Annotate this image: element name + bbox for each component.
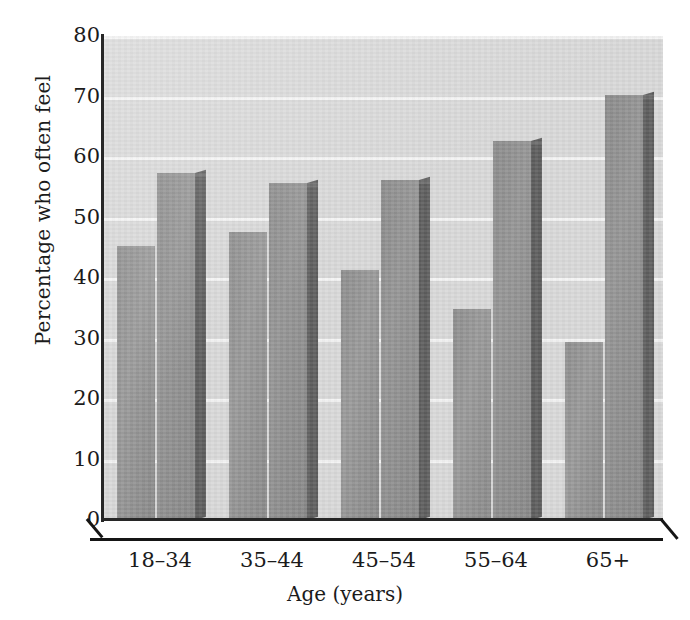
x-axis-tick-labels: 18–3435–4445–5455–6465+ <box>0 548 690 582</box>
gridline <box>103 36 663 39</box>
y-axis-line <box>101 34 104 522</box>
bar-face <box>381 180 419 520</box>
bar-face <box>453 309 491 520</box>
bar-top-face <box>643 95 654 99</box>
x-axis-line-front <box>90 538 663 541</box>
bar-side-face <box>307 180 318 520</box>
bar-face <box>565 342 603 520</box>
bar <box>565 342 603 520</box>
bar-face <box>605 95 643 520</box>
bar-face <box>117 246 155 520</box>
bar-top-face <box>307 183 318 187</box>
x-tick-label: 55–64 <box>464 548 528 572</box>
y-tick-label: 40 <box>52 267 100 288</box>
y-tick-label: 10 <box>52 449 100 470</box>
bar <box>341 270 379 520</box>
x-tick-label: 45–54 <box>352 548 416 572</box>
bar-face <box>269 183 307 520</box>
bar-side-face <box>419 177 430 520</box>
bar <box>381 180 419 520</box>
bar <box>157 173 195 520</box>
bar-chart-figure: Percentage who often feel 01020304050607… <box>0 0 690 620</box>
bar-face <box>229 232 267 520</box>
x-axis-depth-left <box>88 518 106 540</box>
bar <box>269 183 307 520</box>
bar-side-face <box>195 170 206 520</box>
plot-area <box>103 36 663 520</box>
bar-side-face <box>643 92 654 520</box>
bar-top-face <box>531 141 542 145</box>
bar <box>493 141 531 520</box>
gridline <box>103 157 663 160</box>
y-tick-label: 60 <box>52 146 100 167</box>
bar-top-face <box>419 180 430 184</box>
y-tick-label: 30 <box>52 328 100 349</box>
x-axis-title: Age (years) <box>0 582 690 606</box>
x-tick-label: 65+ <box>586 548 630 572</box>
bar-top-face <box>195 173 206 177</box>
bar-face <box>493 141 531 520</box>
bar <box>605 95 643 520</box>
x-tick-label: 18–34 <box>128 548 192 572</box>
y-tick-label: 70 <box>52 86 100 107</box>
bar <box>453 309 491 520</box>
bar-face <box>341 270 379 520</box>
bar <box>229 232 267 520</box>
y-tick-label: 80 <box>52 25 100 46</box>
bar-face <box>157 173 195 520</box>
x-tick-label: 35–44 <box>240 548 304 572</box>
y-tick-label: 20 <box>52 388 100 409</box>
gridline <box>103 97 663 100</box>
y-tick-label: 50 <box>52 207 100 228</box>
x-axis-depth-right <box>660 518 680 542</box>
x-axis-line-back <box>103 518 663 521</box>
bar-side-face <box>531 138 542 520</box>
bar <box>117 246 155 520</box>
